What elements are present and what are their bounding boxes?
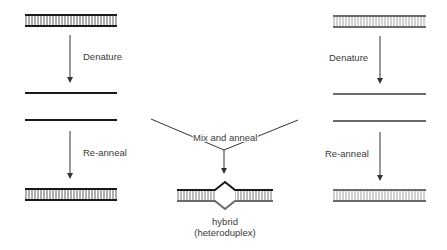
heteroduplex-diagram: Denature Re-anneal Denature <box>0 0 447 250</box>
duplex-a-original <box>25 15 117 26</box>
denature-arrow-left <box>67 35 73 83</box>
mix-and-anneal-label: Mix and anneal <box>193 132 257 143</box>
single-strands-b <box>333 94 426 121</box>
reanneal-arrow-right <box>377 132 383 181</box>
heteroduplex-label: (heteroduplex) <box>194 227 255 238</box>
reanneal-arrow-left <box>67 131 73 179</box>
single-strands-a <box>25 93 117 120</box>
duplex-a-reannealed <box>25 189 117 200</box>
denature-arrow-right <box>377 36 383 84</box>
denature-label-left: Denature <box>83 51 122 62</box>
center-column: Mix and anneal hybrid (heteroduplex) <box>151 119 298 238</box>
duplex-b-original <box>333 16 426 27</box>
duplex-b-reannealed <box>333 190 426 201</box>
hybrid-label: hybrid <box>212 216 238 227</box>
reanneal-label-right: Re-anneal <box>325 148 369 159</box>
reanneal-label-left: Re-anneal <box>83 147 127 158</box>
denature-label-right: Denature <box>329 52 368 63</box>
right-column: Denature Re-anneal <box>325 16 426 201</box>
mix-arrow <box>221 150 227 174</box>
hybrid-strand-b <box>177 201 273 209</box>
hybrid-strand-a <box>177 182 273 190</box>
left-column: Denature Re-anneal <box>25 15 127 200</box>
hybrid-heteroduplex <box>177 182 273 209</box>
